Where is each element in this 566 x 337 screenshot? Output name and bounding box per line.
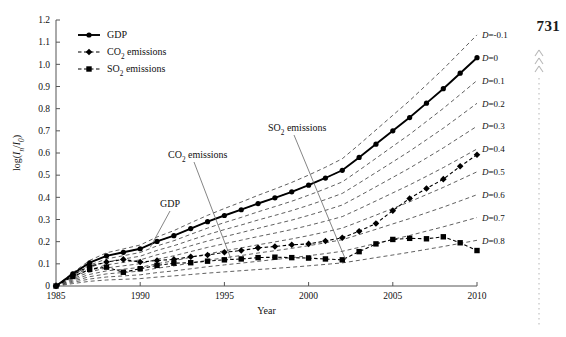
data-point (239, 207, 244, 212)
annotation-leader-line (150, 211, 170, 247)
x-tick-label: 1990 (131, 291, 150, 301)
y-tick-label: 0.3 (38, 215, 50, 225)
x-axis-title: Year (257, 305, 276, 316)
scan-margin-marker (534, 40, 544, 330)
y-tick-label: 0.7 (38, 126, 50, 136)
data-point (424, 101, 429, 106)
data-point (238, 247, 245, 254)
data-point (222, 213, 227, 218)
data-point (288, 241, 295, 248)
data-point (255, 201, 260, 206)
y-tick-label: 0.4 (38, 193, 50, 203)
data-point (221, 249, 228, 256)
data-point (289, 189, 294, 194)
data-point (474, 248, 479, 253)
data-point (171, 233, 176, 238)
reference-line-label: D=0.6 (481, 190, 505, 200)
data-point (121, 270, 126, 275)
data-point (53, 283, 58, 288)
annotation-leader-line (194, 162, 231, 259)
reference-line-label: D=-0.1 (481, 30, 508, 40)
data-point (441, 86, 446, 91)
series-so2-emissions (53, 234, 479, 289)
series-gdp (53, 55, 479, 289)
data-point (457, 163, 464, 170)
data-point (474, 55, 479, 60)
data-point (272, 195, 277, 200)
data-point (340, 257, 345, 262)
data-point (137, 259, 144, 266)
data-point (306, 255, 311, 260)
data-point (138, 266, 143, 271)
data-point (187, 253, 194, 260)
data-point (222, 257, 227, 262)
data-point (357, 155, 362, 160)
data-point (340, 168, 345, 173)
page-number: 731 (537, 18, 560, 35)
y-tick-label: 0.6 (38, 148, 50, 158)
y-tick-label: 1.0 (38, 60, 50, 70)
legend-marker (86, 32, 91, 37)
data-point (474, 151, 481, 158)
data-point (104, 253, 109, 258)
annotation-label: GDP (160, 198, 180, 209)
data-point (457, 240, 462, 245)
legend-label: SO2 emissions (107, 63, 165, 78)
reference-line-label: D=0.2 (481, 99, 505, 109)
reference-line-label: D=0.7 (481, 213, 505, 223)
annotation-label: CO2 emissions (168, 149, 228, 164)
reference-line-D-0.3 (56, 126, 477, 286)
data-point (239, 256, 244, 261)
data-point (407, 115, 412, 120)
data-point (289, 255, 294, 260)
series-line (56, 237, 477, 286)
x-tick-label: 2000 (299, 291, 318, 301)
reference-line-label: D=0.8 (481, 236, 505, 246)
data-point (205, 219, 210, 224)
legend: GDPCO2 emissionsSO2 emissions (78, 29, 167, 78)
y-tick-label: 0.1 (38, 259, 50, 269)
data-point (390, 128, 395, 133)
data-point (188, 260, 193, 265)
y-tick-label: 1.2 (38, 15, 50, 25)
legend-marker (86, 49, 93, 56)
data-point (154, 263, 159, 268)
data-point (407, 236, 412, 241)
x-tick-label: 2010 (468, 291, 487, 301)
data-point (373, 220, 380, 227)
reference-line-label: D=0.4 (481, 144, 505, 154)
data-point (373, 142, 378, 147)
reference-line-D-0.6 (56, 195, 477, 286)
reference-line-label: D=0 (481, 53, 499, 63)
data-point (458, 71, 463, 76)
data-point (120, 256, 127, 263)
reference-line-label: D=0.5 (481, 167, 505, 177)
data-point (87, 267, 92, 272)
data-point (121, 250, 126, 255)
chart-svg: 00.10.20.30.40.50.60.70.80.91.01.11.2198… (0, 0, 566, 337)
data-point (390, 237, 395, 242)
y-tick-label: 1.1 (38, 37, 50, 47)
reference-line-label: D=0.1 (481, 76, 505, 86)
y-tick-label: 0.9 (38, 82, 50, 92)
data-point (171, 260, 176, 265)
data-point (323, 256, 328, 261)
x-tick-label: 1985 (47, 291, 66, 301)
data-point (424, 236, 429, 241)
legend-label: GDP (107, 29, 127, 40)
data-point (272, 243, 279, 250)
y-tick-label: 0.5 (38, 170, 50, 180)
data-point (322, 238, 329, 245)
data-point (356, 249, 361, 254)
y-axis-title: log(In/I0) (11, 135, 26, 171)
y-tick-label: 0 (45, 281, 50, 291)
data-point (323, 175, 328, 180)
x-tick-label: 2005 (383, 291, 402, 301)
data-point (204, 252, 211, 259)
reference-line-label: D=0.3 (481, 121, 505, 131)
data-point (154, 239, 159, 244)
y-tick-label: 0.8 (38, 104, 50, 114)
data-point (373, 241, 378, 246)
data-point (441, 234, 446, 239)
y-tick-label: 0.2 (38, 237, 50, 247)
